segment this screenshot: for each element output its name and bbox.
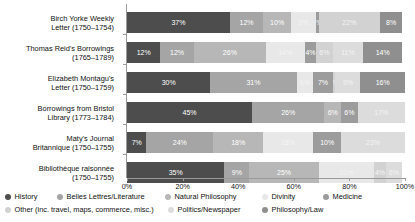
legend-swatch-icon [5, 207, 11, 213]
bar-segment: 4% [305, 42, 316, 63]
y-axis-tick [123, 124, 127, 125]
category-label-line: Birch Yorke Weekly [50, 14, 114, 23]
bar-segment: 7% [127, 132, 146, 153]
legend-swatch-icon [168, 207, 174, 213]
bar-segment: 45% [127, 102, 252, 123]
bar-segment: 31% [210, 72, 296, 93]
chart-legend: HistoryBelles Lettres/LiteratureNatural … [0, 192, 415, 220]
stacked-bar: 45%26%6%6%17% [127, 102, 405, 123]
category-label: Borrowings from BristolLibrary (1773–178… [0, 98, 120, 128]
legend-label: Belles Lettres/Literature [67, 192, 145, 201]
legend-item[interactable]: Other (inc. travel, maps, commerce, misc… [5, 205, 154, 214]
bar-segment: 26% [194, 42, 266, 63]
legend-label: Politics/Newspaper [178, 205, 241, 214]
chart-row: Thomas Reid's Borrowings(1765–1789)12%12… [0, 38, 415, 68]
stacked-bar: 37%12%10%9%1%22%8% [127, 12, 405, 33]
bar-segment: 12% [230, 12, 263, 33]
legend-label: Natural Philosophy [175, 192, 237, 201]
bar-segment: 9% [291, 12, 316, 33]
bar-segment: 6% [297, 72, 314, 93]
category-label-line: Elizabeth Montagu's [48, 74, 114, 83]
plot-area: Birch Yorke WeeklyLetter (1750–1754)37%1… [0, 0, 415, 178]
chart-row: Maty's JournalBritannique (1750–1755)7%2… [0, 128, 415, 158]
legend-swatch-icon [262, 194, 268, 200]
category-label-line: Letter (1750–1759) [51, 83, 114, 92]
x-axis-tick [349, 178, 350, 181]
x-axis-line [127, 178, 405, 179]
category-label-line: Bibliothèque raisonnée [39, 164, 114, 173]
y-axis-tick [123, 154, 127, 155]
legend-item[interactable]: Philosophy/Law [262, 205, 323, 214]
bar-segment: 6% [386, 162, 403, 183]
category-label-line: Thomas Reid's Borrowings [26, 44, 114, 53]
category-label-line: Borrowings from Bristol [38, 104, 114, 113]
bar-segment: 24% [146, 132, 213, 153]
legend-label: Other (inc. travel, maps, commerce, misc… [15, 205, 154, 214]
bar-segment: 10% [263, 12, 291, 33]
bar-segment: 17% [358, 102, 405, 123]
category-label: Elizabeth Montagu'sLetter (1750–1759) [0, 68, 120, 98]
legend-swatch-icon [262, 207, 268, 213]
category-label: Bibliothèque raisonnée(1750–1755) [0, 158, 120, 188]
y-axis-tick [123, 184, 127, 185]
bar-segment: 20% [319, 162, 375, 183]
y-axis-tick [123, 34, 127, 35]
category-label: Maty's JournalBritannique (1750–1755) [0, 128, 120, 158]
bar-segment: 12% [127, 42, 160, 63]
bar-segment: 8% [380, 12, 402, 33]
category-label: Thomas Reid's Borrowings(1765–1789) [0, 38, 120, 68]
x-axis-tick-label: 80% [342, 182, 356, 191]
legend-label: Philosophy/Law [272, 205, 324, 214]
bar-segment: 26% [252, 102, 324, 123]
category-label-line: Maty's Journal [67, 134, 114, 143]
stacked-bar: 7%24%18%18%10%23% [127, 132, 405, 153]
chart-row: Elizabeth Montagu'sLetter (1750–1759)30%… [0, 68, 415, 98]
bar-segment: 23% [341, 132, 405, 153]
legend-item[interactable]: Belles Lettres/Literature [57, 192, 145, 201]
stacked-bar: 35%9%25%20%4%6% [127, 162, 405, 183]
x-axis-tick-label: 40% [231, 182, 245, 191]
bar-segment: 6% [341, 102, 358, 123]
legend-item[interactable]: History [5, 192, 38, 201]
legend-swatch-icon [323, 194, 329, 200]
legend-swatch-icon [57, 194, 63, 200]
bar-segment: 11% [333, 42, 364, 63]
category-label-line: Letter (1750–1754) [51, 23, 114, 32]
bar-segment: 22% [319, 12, 380, 33]
category-label: Birch Yorke WeeklyLetter (1750–1754) [0, 8, 120, 38]
x-axis-tick [294, 178, 295, 181]
category-label-line: (1750–1755) [72, 173, 114, 182]
bar-segment: 9% [335, 72, 360, 93]
legend-item[interactable]: Medicine [323, 192, 362, 201]
legend-item[interactable]: Divinity [262, 192, 295, 201]
bar-segment: 9% [224, 162, 249, 183]
y-axis-tick [123, 64, 127, 65]
bar-segment: 16% [360, 72, 404, 93]
bar-segment: 6% [324, 102, 341, 123]
x-axis-tick [238, 178, 239, 181]
legend-item[interactable]: Natural Philosophy [165, 192, 237, 201]
stacked-bar-chart: Birch Yorke WeeklyLetter (1750–1754)37%1… [0, 0, 415, 222]
category-label-line: Britannique (1750–1755) [33, 143, 114, 152]
x-axis-tick-label: 100% [396, 182, 414, 191]
chart-row: Borrowings from BristolLibrary (1773–178… [0, 98, 415, 128]
legend-item[interactable]: Politics/Newspaper [168, 205, 240, 214]
category-label-line: (1765–1789) [72, 53, 114, 62]
legend-swatch-icon [5, 194, 11, 200]
bar-segment: 37% [127, 12, 230, 33]
stacked-bar: 30%31%6%7%1%9%16% [127, 72, 405, 93]
x-axis-tick-label: 20% [175, 182, 189, 191]
x-axis-tick [405, 178, 406, 181]
x-axis-tick [183, 178, 184, 181]
chart-row: Birch Yorke WeeklyLetter (1750–1754)37%1… [0, 8, 415, 38]
bar-segment: 10% [313, 132, 341, 153]
stacked-bar: 12%12%26%14%4%6%11%14% [127, 42, 405, 63]
legend-label: History [15, 192, 38, 201]
bar-segment: 25% [249, 162, 319, 183]
bar-segment: 14% [363, 42, 402, 63]
x-axis-tick [127, 178, 128, 181]
category-label-line: Library (1773–1784) [47, 113, 114, 122]
y-axis-tick [123, 94, 127, 95]
bar-segment: 4% [374, 162, 385, 183]
bar-segment: 35% [127, 162, 224, 183]
